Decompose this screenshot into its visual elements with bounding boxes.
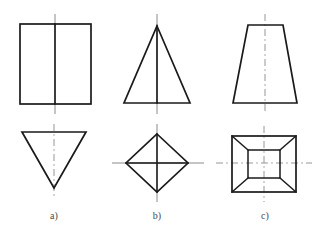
top-view-c-nested-squares (216, 126, 312, 202)
figure-label-b: b) (153, 210, 161, 222)
front-view-b-triangle (124, 14, 190, 114)
projection-group-b: b) (112, 14, 204, 222)
corner-diagonal-bottom-left-c (232, 178, 248, 192)
top-view-a-triangle (22, 124, 86, 198)
figure-label-a: a) (50, 210, 58, 222)
front-view-c-trapezoid (233, 14, 297, 114)
projection-group-c: c) (216, 14, 312, 222)
corner-diagonal-bottom-right-c (280, 178, 296, 192)
orthographic-projection-diagram: a) b) (0, 0, 325, 234)
corner-diagonal-top-left-c (232, 136, 248, 150)
top-view-b-diamond (112, 124, 204, 202)
figure-canvas: a) b) (0, 0, 325, 234)
front-view-a-rectangle (20, 14, 91, 114)
projection-group-a: a) (20, 14, 91, 222)
figure-label-c: c) (261, 210, 269, 222)
corner-diagonal-top-right-c (280, 136, 296, 150)
